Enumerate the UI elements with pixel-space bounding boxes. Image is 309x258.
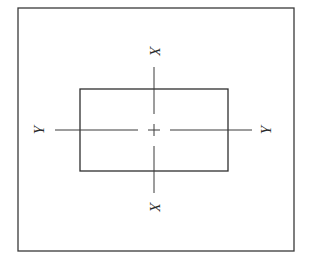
axis-label-x-top: X xyxy=(146,44,162,58)
section-diagram: X X Y Y xyxy=(0,0,309,258)
axis-label-y-left: Y xyxy=(32,123,48,137)
axis-label-x-bottom: X xyxy=(146,200,162,214)
axis-label-y-right: Y xyxy=(259,123,275,137)
